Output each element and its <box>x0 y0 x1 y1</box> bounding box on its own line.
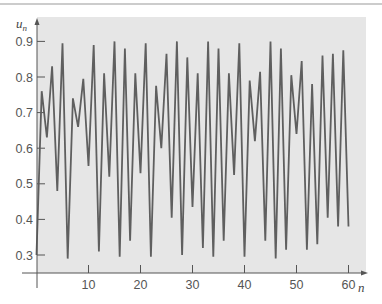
x-tick-label: 30 <box>186 278 200 292</box>
y-tick-label: 0.3 <box>16 249 33 263</box>
y-tick-label: 0.7 <box>16 106 33 120</box>
x-axis-label: n <box>358 280 365 295</box>
y-axis-label: un <box>16 16 28 33</box>
y-tick-label: 0.8 <box>16 71 33 85</box>
y-tick-label: 0.4 <box>16 213 33 227</box>
x-tick-label: 50 <box>290 278 304 292</box>
y-tick-label: 0.6 <box>16 142 33 156</box>
y-tick-label: 0.5 <box>16 177 33 191</box>
x-tick-label: 20 <box>134 278 148 292</box>
x-tick-label: 40 <box>238 278 252 292</box>
x-tick-label: 60 <box>342 278 356 292</box>
x-tick-label: 10 <box>82 278 96 292</box>
logistic-sequence-chart: 0.30.40.50.60.70.80.9 102030405060 un n <box>0 0 382 304</box>
y-tick-label: 0.9 <box>16 35 33 49</box>
